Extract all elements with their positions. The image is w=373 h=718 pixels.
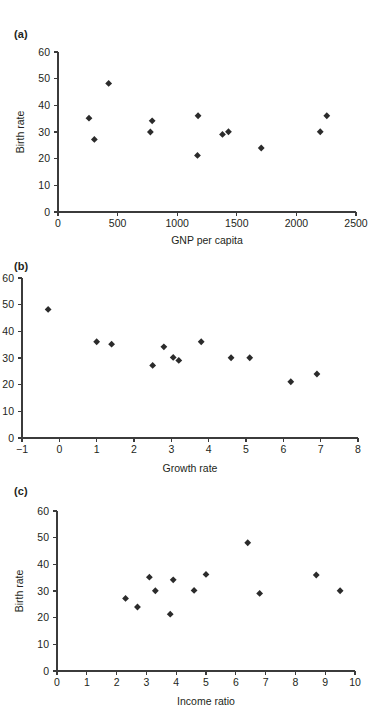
svg-a-y-ticklabel: 50 — [38, 72, 50, 84]
data-point-marker — [287, 378, 294, 385]
panel-b: (b) 0102030405060−1012345678Growth rateB… — [0, 260, 373, 485]
svg-a-x-ticklabel: 1000 — [166, 217, 190, 229]
svg-c-x-ticklabel: 10 — [349, 676, 361, 688]
svg-c-y-ticklabel: 0 — [43, 665, 49, 677]
svg-c-x-ticklabel: 7 — [263, 676, 269, 688]
svg-b-x-ticklabel: −1 — [16, 443, 28, 455]
panel-c-plot-area: 0102030405060012345678910Income ratioBir… — [0, 485, 373, 718]
svg-b-x-ticklabel: 8 — [355, 443, 361, 455]
svg-b-x-ticklabel: 6 — [280, 443, 286, 455]
data-point-marker — [323, 112, 330, 119]
svg-b-y-ticklabel: 20 — [2, 378, 14, 390]
data-point-marker — [194, 152, 201, 159]
data-point-marker — [170, 576, 177, 583]
svg-b-x-ticklabel: 1 — [94, 443, 100, 455]
data-point-marker — [122, 595, 129, 602]
svg-b-y-ticklabel: 30 — [2, 352, 14, 364]
svg-a-x-ticklabel: 2500 — [344, 217, 368, 229]
data-point-marker — [225, 128, 232, 135]
svg-c-y-ticklabel: 40 — [37, 558, 49, 570]
data-point-marker — [244, 539, 251, 546]
svg-a-x-ticklabel: 0 — [55, 217, 61, 229]
panel-c-svg: 0102030405060012345678910Income ratioBir… — [0, 485, 373, 718]
data-point-marker — [134, 604, 141, 611]
panel-a-svg: 010203040506005001000150020002500GNP per… — [0, 28, 373, 260]
svg-c-y-ticklabel: 10 — [37, 638, 49, 650]
data-point-marker — [149, 117, 156, 124]
panel-c: (c) 0102030405060012345678910Income rati… — [0, 485, 373, 718]
svg-a-ylabel: Birth rate — [14, 111, 26, 154]
data-point-marker — [313, 572, 320, 579]
data-point-marker — [337, 587, 344, 594]
data-point-marker — [256, 590, 263, 597]
svg-c-y-ticklabel: 50 — [37, 531, 49, 543]
svg-b-y-ticklabel: 60 — [2, 272, 14, 284]
svg-b-y-ticklabel: 40 — [2, 325, 14, 337]
svg-c-x-ticklabel: 8 — [292, 676, 298, 688]
data-point-marker — [317, 128, 324, 135]
svg-c-x-ticklabel: 0 — [54, 676, 60, 688]
panel-b-plot-area: 0102030405060−1012345678Growth rateBirth… — [0, 260, 373, 485]
data-point-marker — [167, 611, 174, 618]
data-point-marker — [152, 587, 159, 594]
svg-b-xlabel: Growth rate — [163, 462, 218, 474]
svg-b-x-ticklabel: 7 — [318, 443, 324, 455]
data-point-marker — [147, 129, 154, 136]
data-point-marker — [195, 112, 202, 119]
svg-a-y-ticklabel: 20 — [38, 152, 50, 164]
svg-b-x-ticklabel: 3 — [168, 443, 174, 455]
svg-c-x-ticklabel: 3 — [143, 676, 149, 688]
svg-b-y-ticklabel: 10 — [2, 405, 14, 417]
svg-a-y-ticklabel: 0 — [44, 206, 50, 218]
data-point-marker — [93, 338, 100, 345]
data-point-marker — [191, 587, 198, 594]
svg-c-y-ticklabel: 60 — [37, 505, 49, 517]
data-point-marker — [246, 354, 253, 361]
data-point-marker — [108, 341, 115, 348]
svg-c-ylabel: Birth rate — [13, 570, 25, 613]
data-point-marker — [228, 354, 235, 361]
svg-a-x-ticklabel: 1500 — [225, 217, 249, 229]
scatter-plot-figure: (a) 010203040506005001000150020002500GNP… — [0, 0, 373, 718]
panel-a-plot-area: 010203040506005001000150020002500GNP per… — [0, 28, 373, 260]
data-point-marker — [258, 145, 265, 152]
panel-a: (a) 010203040506005001000150020002500GNP… — [0, 28, 373, 260]
data-point-marker — [219, 131, 226, 138]
svg-a-y-ticklabel: 10 — [38, 179, 50, 191]
data-point-marker — [86, 115, 93, 122]
data-point-marker — [105, 80, 112, 87]
svg-c-y-ticklabel: 30 — [37, 585, 49, 597]
svg-c-x-ticklabel: 2 — [114, 676, 120, 688]
svg-a-y-ticklabel: 40 — [38, 99, 50, 111]
svg-b-x-ticklabel: 2 — [131, 443, 137, 455]
data-point-marker — [314, 371, 321, 378]
svg-a-x-ticklabel: 2000 — [285, 217, 309, 229]
svg-b-x-ticklabel: 5 — [243, 443, 249, 455]
svg-a-y-ticklabel: 30 — [38, 126, 50, 138]
svg-c-x-ticklabel: 4 — [173, 676, 179, 688]
svg-c-x-ticklabel: 5 — [203, 676, 209, 688]
data-point-marker — [149, 362, 156, 369]
svg-c-x-ticklabel: 9 — [322, 676, 328, 688]
svg-a-x-ticklabel: 500 — [109, 217, 127, 229]
data-point-marker — [175, 357, 182, 364]
data-point-marker — [91, 136, 98, 143]
svg-b-x-ticklabel: 0 — [56, 443, 62, 455]
data-point-marker — [170, 354, 177, 361]
svg-a-y-ticklabel: 60 — [38, 46, 50, 58]
data-point-marker — [160, 343, 167, 350]
svg-c-x-ticklabel: 1 — [84, 676, 90, 688]
panel-b-svg: 0102030405060−1012345678Growth rateBirth… — [0, 260, 373, 485]
data-point-marker — [198, 338, 205, 345]
svg-b-y-ticklabel: 50 — [2, 298, 14, 310]
svg-c-xlabel: Income ratio — [177, 695, 235, 707]
svg-a-xlabel: GNP per capita — [171, 234, 243, 246]
data-point-marker — [45, 306, 52, 313]
svg-c-y-ticklabel: 20 — [37, 611, 49, 623]
svg-c-x-ticklabel: 6 — [233, 676, 239, 688]
data-point-marker — [203, 571, 210, 578]
data-point-marker — [146, 574, 153, 581]
svg-b-y-ticklabel: 0 — [8, 432, 14, 444]
svg-b-x-ticklabel: 4 — [206, 443, 212, 455]
